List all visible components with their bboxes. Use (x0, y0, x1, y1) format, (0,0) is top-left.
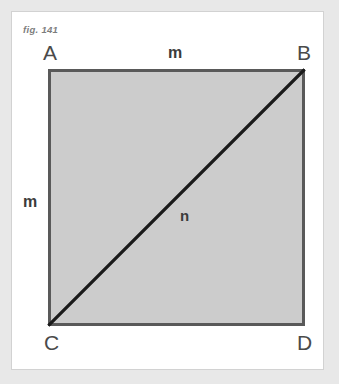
measure-label-left-side: m (23, 194, 37, 210)
figure-caption: fig. 141 (23, 24, 58, 35)
vertex-label-b: B (297, 42, 311, 63)
figure-sheet: fig. 141 A B C D m m n (11, 11, 324, 370)
vertex-label-a: A (43, 42, 57, 63)
vertex-label-d: D (297, 332, 312, 353)
measure-label-diagonal: n (180, 208, 189, 223)
diagonal-line-bc (50, 71, 304, 325)
measure-label-top-side: m (168, 45, 182, 61)
diagonal-line-group (48, 69, 305, 326)
vertex-label-c: C (44, 332, 59, 353)
